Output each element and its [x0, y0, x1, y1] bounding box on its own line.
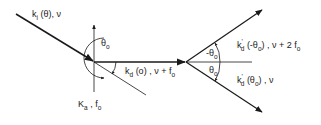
upper-diffracted-wave-vector	[186, 10, 262, 62]
lower-diffracted-wave-vector	[186, 62, 262, 112]
angle-label-left: θo	[101, 38, 110, 50]
acoustic-label: Ka , fo	[78, 99, 102, 111]
first-diffracted-label: kd (o) , ν + fo	[125, 66, 175, 78]
angle-label-upper: -θo	[206, 48, 218, 60]
scattering-diagram: ki (θ), ν θo Ka , fo kd (o) , ν + fo -θo…	[0, 0, 321, 125]
incident-label: ki (θ), ν	[32, 9, 61, 21]
angle-label-lower: θo	[209, 65, 218, 77]
incident-wave-vector	[16, 14, 93, 61]
lower-diffracted-label: k'd (θo) , ν	[237, 73, 274, 87]
angle-arc-small	[112, 62, 116, 74]
upper-diffracted-label: k'd (-θo) , ν + 2 fo	[237, 38, 301, 52]
